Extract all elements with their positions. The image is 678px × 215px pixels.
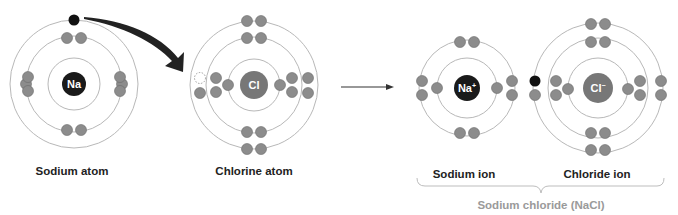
ionic-bond-diagram: NaClNa+Cl−: [0, 0, 678, 215]
electron: [62, 125, 73, 136]
sodium-ion-label: Sodium ion: [433, 168, 496, 180]
electron: [23, 86, 34, 97]
electron: [600, 145, 611, 156]
electron: [115, 72, 126, 83]
chlorine-atom-label: Chlorine atom: [215, 165, 292, 177]
electron: [656, 90, 667, 101]
electron: [586, 37, 597, 48]
electron: [287, 87, 298, 98]
electron: [586, 145, 597, 156]
electron: [256, 127, 267, 138]
electron: [635, 90, 646, 101]
electron: [507, 90, 518, 101]
compound-bracket: [417, 178, 664, 193]
electron: [600, 128, 611, 139]
electron-vacancy: [195, 73, 206, 84]
electron: [303, 88, 314, 99]
electron: [256, 16, 267, 27]
sodium-atom: Na: [10, 15, 138, 149]
compound-label: Sodium chloride (NaCl): [477, 199, 604, 211]
electron: [417, 76, 428, 87]
electron: [76, 33, 87, 44]
electron: [635, 76, 646, 87]
chlorine-atom: Cl: [190, 16, 318, 155]
electron: [551, 76, 562, 87]
electron: [256, 144, 267, 155]
electron: [275, 80, 286, 91]
sodium-ion: Na+: [417, 37, 518, 139]
electron: [623, 84, 634, 95]
chloride-ion: Cl−: [530, 19, 667, 156]
electron: [242, 127, 253, 138]
electron: [586, 128, 597, 139]
element-symbol: Cl: [249, 79, 260, 91]
transferred-electron: [69, 15, 80, 26]
electron: [195, 88, 206, 99]
electron: [551, 90, 562, 101]
electron: [223, 80, 234, 91]
electron: [242, 33, 253, 44]
atoms-layer: NaClNa+Cl−: [10, 15, 667, 156]
electron: [417, 90, 428, 101]
electron: [600, 37, 611, 48]
chloride-ion-label: Chloride ion: [563, 168, 630, 180]
electron: [530, 90, 541, 101]
electron: [242, 16, 253, 27]
electron: [656, 76, 667, 87]
electron: [600, 19, 611, 30]
electron: [455, 37, 466, 48]
reaction-arrow-icon: [341, 84, 394, 90]
electron: [455, 128, 466, 139]
electron: [303, 73, 314, 84]
electron: [115, 86, 126, 97]
electron: [469, 128, 480, 139]
electron: [432, 83, 443, 94]
electron: [256, 33, 267, 44]
electron: [507, 76, 518, 87]
electron: [62, 33, 73, 44]
element-symbol: Na: [67, 78, 82, 90]
electron: [287, 73, 298, 84]
electron: [211, 87, 222, 98]
electron: [76, 125, 87, 136]
electron: [469, 37, 480, 48]
electron: [211, 73, 222, 84]
electron: [23, 72, 34, 83]
transferred-electron: [530, 76, 541, 87]
electron: [586, 19, 597, 30]
electron: [242, 144, 253, 155]
electron: [492, 83, 503, 94]
sodium-atom-label: Sodium atom: [36, 165, 109, 177]
electron: [563, 84, 574, 95]
